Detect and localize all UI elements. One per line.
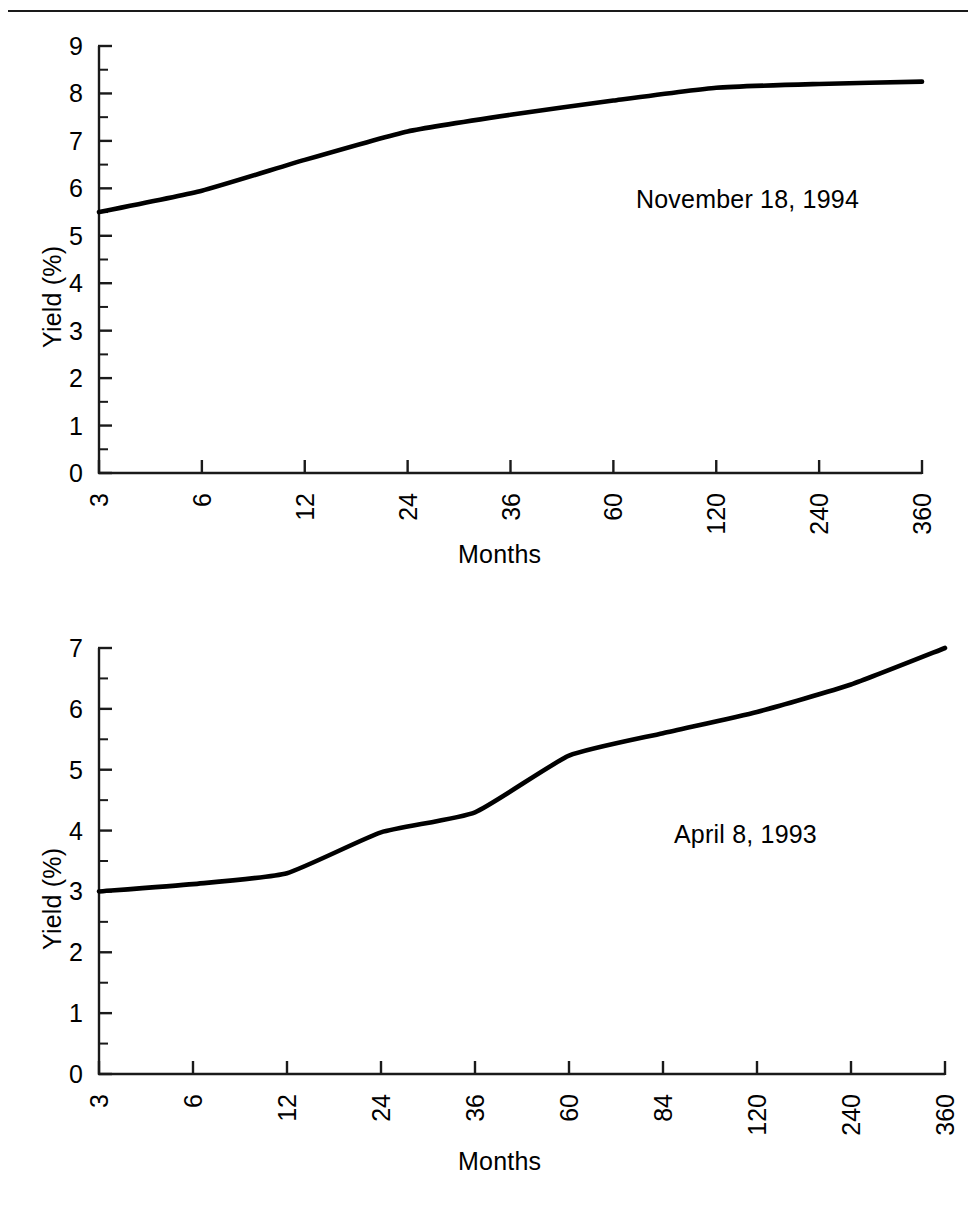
- y-tick-label: 5: [69, 756, 83, 784]
- y-tick-label: 0: [69, 1060, 83, 1088]
- x-tick-label: 84: [649, 1094, 677, 1122]
- chart-top: 01234567893612243660120240360 Yield (%) …: [0, 18, 977, 598]
- x-tick-label: 3: [85, 493, 113, 507]
- y-axis-title-bottom: Yield (%): [38, 848, 67, 950]
- x-tick-label: 120: [743, 1094, 771, 1136]
- y-tick-label: 7: [69, 127, 83, 155]
- y-tick-label: 8: [69, 79, 83, 107]
- x-tick-label: 24: [367, 1094, 395, 1122]
- x-tick-label: 360: [908, 493, 936, 535]
- y-tick-label: 3: [69, 317, 83, 345]
- y-tick-label: 2: [69, 938, 83, 966]
- figure-page: 01234567893612243660120240360 Yield (%) …: [0, 0, 977, 1215]
- page-top-divider: [8, 10, 968, 12]
- y-tick-label: 1: [69, 412, 83, 440]
- x-tick-label: 12: [273, 1094, 301, 1122]
- y-tick-label: 4: [69, 817, 83, 845]
- x-tick-label: 240: [805, 493, 833, 535]
- y-tick-label: 2: [69, 364, 83, 392]
- x-tick-label: 24: [394, 493, 422, 521]
- y-tick-label: 4: [69, 269, 83, 297]
- chart-top-canvas: 01234567893612243660120240360: [0, 18, 977, 538]
- y-tick-label: 5: [69, 222, 83, 250]
- x-axis-title-bottom: Months: [458, 1147, 541, 1176]
- y-tick-label: 7: [69, 634, 83, 662]
- chart-bottom: 01234567361224366084120240360 Yield (%) …: [0, 615, 977, 1215]
- x-tick-label: 60: [555, 1094, 583, 1122]
- y-tick-label: 6: [69, 174, 83, 202]
- x-axis-title-top: Months: [458, 540, 541, 569]
- chart-bottom-canvas: 01234567361224366084120240360: [0, 615, 977, 1145]
- x-tick-label: 60: [599, 493, 627, 521]
- x-tick-label: 6: [179, 1094, 207, 1108]
- x-tick-label: 360: [931, 1094, 959, 1136]
- y-tick-label: 9: [69, 32, 83, 60]
- x-tick-label: 6: [188, 493, 216, 507]
- x-tick-label: 36: [461, 1094, 489, 1122]
- data-series-line: [99, 648, 945, 891]
- chart-top-annotation: November 18, 1994: [636, 185, 859, 214]
- x-tick-label: 120: [702, 493, 730, 535]
- x-tick-label: 240: [837, 1094, 865, 1136]
- y-tick-label: 1: [69, 999, 83, 1027]
- y-tick-label: 0: [69, 459, 83, 487]
- y-tick-label: 3: [69, 877, 83, 905]
- x-tick-label: 3: [85, 1094, 113, 1108]
- y-axis-title-top: Yield (%): [38, 246, 67, 348]
- x-tick-label: 36: [497, 493, 525, 521]
- x-tick-label: 12: [291, 493, 319, 521]
- chart-bottom-annotation: April 8, 1993: [674, 820, 817, 849]
- y-tick-label: 6: [69, 695, 83, 723]
